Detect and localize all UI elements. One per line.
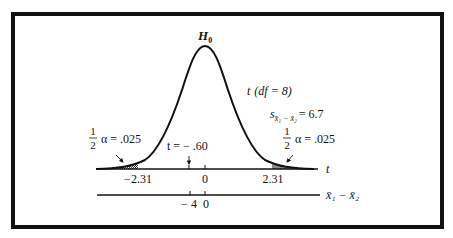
difference-axis: x̄₁ − x̄₂ − 4 0 <box>97 188 359 211</box>
t-tick-label: −2.31 <box>124 172 152 186</box>
difference-tick-label: − 4 <box>181 197 197 211</box>
observed-t-annotation: t = − .60 <box>167 139 208 164</box>
svg-text:2: 2 <box>90 139 96 151</box>
t-axis-name: t <box>326 162 330 176</box>
t-distribution-figure: H0 t(df = 8) sx̄₁ − x̄₂= 6.7 1 2 α = .02… <box>0 0 453 238</box>
svg-text:t = − .60: t = − .60 <box>167 139 208 153</box>
svg-text:1: 1 <box>284 125 290 137</box>
null-hypothesis-label: H0 <box>197 28 212 45</box>
difference-tick-label: 0 <box>203 197 209 211</box>
figure-svg: H0 t(df = 8) sx̄₁ − x̄₂= 6.7 1 2 α = .02… <box>0 0 453 238</box>
t-tick-label: 2.31 <box>263 172 284 186</box>
svg-text:α = .025: α = .025 <box>295 132 335 146</box>
svg-text:α = .025: α = .025 <box>101 132 141 146</box>
left-tail-annotation: 1 2 α = .025 <box>89 125 141 162</box>
svg-text:1: 1 <box>90 125 96 137</box>
right-tail-annotation: 1 2 α = .025 <box>283 125 335 162</box>
svg-text:2: 2 <box>284 139 290 151</box>
t-tick-label: 0 <box>202 172 208 186</box>
standard-error-label: sx̄₁ − x̄₂= 6.7 <box>270 107 324 123</box>
difference-axis-name: x̄₁ − x̄₂ <box>325 188 359 202</box>
distribution-label: t(df = 8) <box>247 84 292 98</box>
